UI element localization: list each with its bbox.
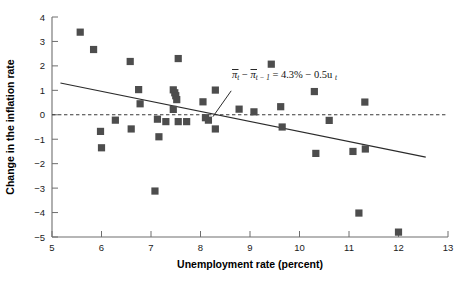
y-axis-title: Change in the inflation rate xyxy=(4,59,16,195)
data-point-marker xyxy=(173,96,180,103)
x-axis-title: Unemployment rate (percent) xyxy=(177,258,323,270)
data-point-marker xyxy=(135,86,142,93)
x-tick-label: 6 xyxy=(99,242,104,253)
data-point-marker xyxy=(311,88,318,95)
x-tick-label: 9 xyxy=(247,242,252,253)
data-point-marker xyxy=(355,209,362,216)
y-tick-label: 4 xyxy=(40,12,45,23)
data-point-marker xyxy=(268,61,275,68)
data-point-marker xyxy=(183,118,190,125)
x-tick-label: 8 xyxy=(198,242,203,253)
x-tick-label: 7 xyxy=(148,242,153,253)
data-point-marker xyxy=(236,106,243,113)
y-tick-label: −5 xyxy=(34,232,45,243)
x-tick-label: 5 xyxy=(49,242,54,253)
data-point-marker xyxy=(349,148,356,155)
y-tick-label: −2 xyxy=(34,158,45,169)
x-tick-label: 12 xyxy=(393,242,404,253)
data-point-marker xyxy=(112,117,119,124)
x-tick-label: 10 xyxy=(294,242,305,253)
data-point-marker xyxy=(277,103,284,110)
data-point-marker xyxy=(77,29,84,36)
data-point-marker xyxy=(170,106,177,113)
data-point-marker xyxy=(98,144,105,151)
y-tick-label: 0 xyxy=(40,109,45,120)
data-point-marker xyxy=(155,133,162,140)
data-point-marker xyxy=(97,128,104,135)
data-point-marker xyxy=(162,118,169,125)
data-point-marker xyxy=(127,58,134,65)
data-point-marker xyxy=(395,229,402,236)
data-point-marker xyxy=(154,116,161,123)
data-point-marker xyxy=(250,108,257,115)
y-tick-label: −1 xyxy=(34,134,45,145)
data-point-marker xyxy=(361,98,368,105)
y-tick-label: 3 xyxy=(40,36,45,47)
data-point-marker xyxy=(90,46,97,53)
data-point-marker xyxy=(151,187,158,194)
y-tick-label: −3 xyxy=(34,183,45,194)
data-point-marker xyxy=(312,150,319,157)
data-point-marker xyxy=(175,55,182,62)
data-point-marker xyxy=(128,125,135,132)
y-tick-label: −4 xyxy=(34,207,45,218)
phillips-curve-figure: 43210−1−2−3−4−5 5678910111213 πt − πt − … xyxy=(0,0,473,285)
data-point-marker xyxy=(212,125,219,132)
y-tick-label: 2 xyxy=(40,60,45,71)
x-tick-label: 11 xyxy=(344,242,354,253)
scatter-plot-svg: 43210−1−2−3−4−5 5678910111213 πt − πt − … xyxy=(0,0,473,285)
data-point-marker xyxy=(137,100,144,107)
data-point-marker xyxy=(199,98,206,105)
data-point-marker xyxy=(326,117,333,124)
x-tick-label: 13 xyxy=(443,242,454,253)
data-point-marker xyxy=(212,86,219,93)
data-point-marker xyxy=(175,118,182,125)
data-point-marker xyxy=(279,123,286,130)
data-point-marker xyxy=(362,145,369,152)
data-point-marker xyxy=(205,117,212,124)
y-tick-label: 1 xyxy=(40,85,45,96)
